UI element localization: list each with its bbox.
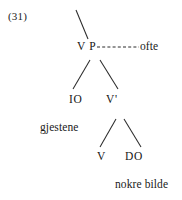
example-number-label: (31)	[8, 11, 27, 22]
tree-node-do: DO	[125, 151, 143, 163]
tree-node-v-bar: V'	[106, 94, 118, 106]
tree-branch-layer	[0, 0, 182, 200]
tree-node-io: IO	[69, 94, 82, 106]
tree-node-v: V	[97, 151, 106, 163]
branch-vp-to-vbar	[100, 60, 118, 89]
terminal-direct-object-nokre-bilde: nokre bilde	[115, 179, 168, 191]
terminal-adjunct-ofte: ofte	[140, 41, 158, 53]
terminal-indirect-object-gjestene: gjestene	[40, 122, 78, 134]
branch-vbar-to-v	[100, 119, 116, 147]
branch-vbar-to-do	[124, 119, 141, 147]
tree-node-vp: V P	[77, 41, 96, 53]
branch-vp-to-io	[73, 60, 90, 89]
branch-mother-to-vp	[76, 10, 88, 39]
syntax-tree-figure: (31) V P IO V' V DO ofte gjestene nokre …	[0, 0, 182, 200]
